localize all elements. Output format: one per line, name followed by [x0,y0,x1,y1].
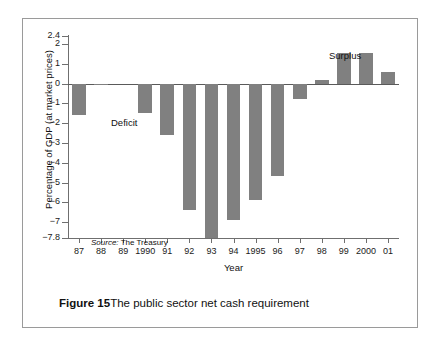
surplus-annotation: Surplus [329,50,361,61]
source-note: Source: The Treasury [91,238,168,247]
y-axis-tick [62,36,68,37]
x-axis-tick-label: 01 [383,246,393,256]
figure-caption-label: Figure 15 [59,297,110,309]
x-axis-tick-label: 2000 [356,246,376,256]
x-axis-title: Year [68,262,399,273]
x-axis-tick [189,238,190,243]
x-axis-tick-label: 89 [118,246,128,256]
x-axis-tick [344,238,345,243]
y-axis-tick [62,103,68,104]
figure-caption: Figure 15The public sector net cash requ… [59,297,309,309]
y-axis-tick-label: −6 [50,197,60,206]
bar [293,84,307,100]
bar [381,72,395,84]
x-axis-tick [211,238,212,243]
deficit-annotation: Deficit [111,117,137,128]
y-axis-tick [62,123,68,124]
x-axis-tick [388,238,389,243]
y-axis-tick [62,44,68,45]
figure-caption-text: The public sector net cash requirement [110,297,309,309]
x-axis-tick [256,238,257,243]
x-axis-tick-label: 93 [206,246,216,256]
y-axis-tick-label: −5 [50,178,60,187]
x-axis-tick [366,238,367,243]
x-axis-tick [322,238,323,243]
x-axis-tick [300,238,301,243]
source-note-label: Source: [91,238,119,247]
y-axis-tick [62,202,68,203]
x-axis-tick-label: 92 [184,246,194,256]
y-axis-tick [62,84,68,85]
bar [94,84,108,86]
x-axis-tick-label: 1995 [246,246,266,256]
bar [227,84,241,221]
chart-plot-wrapper: Percentage of GDP (at market prices) 2.4… [23,19,419,287]
x-axis-tick [278,238,279,243]
x-axis-tick-label: 87 [74,246,84,256]
y-axis-tick-label: −2 [50,118,60,127]
y-axis-tick [62,183,68,184]
figure-frame: Percentage of GDP (at market prices) 2.4… [22,18,418,328]
bar [249,84,263,201]
x-axis-tick [234,238,235,243]
y-axis-tick-label: 2 [55,39,60,48]
bar [183,84,197,211]
bar [160,84,174,135]
y-axis-tick [62,143,68,144]
bar [315,80,329,84]
x-axis-tick-label: 88 [96,246,106,256]
y-axis-tick-label: −3 [50,138,60,147]
y-axis-line [68,35,69,239]
y-axis-tick-labels: 2.4210−1−2−3−4−5−6−7−7.8 [23,19,60,259]
y-axis-tick-label: −4 [50,158,60,167]
bar [205,84,219,238]
x-axis-tick-label: 99 [339,246,349,256]
y-axis-tick-label: −7.8 [42,233,60,242]
y-axis-tick-label: 1 [55,59,60,68]
x-axis-tick-label: 98 [317,246,327,256]
x-axis-tick-label: 1990 [135,246,155,256]
y-axis-tick [62,222,68,223]
bar [72,84,86,116]
x-axis-tick [79,238,80,243]
y-axis-tick [62,238,68,239]
y-axis-tick-label: −7 [50,217,60,226]
source-note-value: The Treasury [121,238,168,247]
bar [271,84,285,176]
y-axis-tick-label: 0 [55,79,60,88]
x-axis-tick-label: 91 [162,246,172,256]
y-axis-tick [62,163,68,164]
x-axis-tick-label: 97 [295,246,305,256]
y-axis-tick-label: −1 [50,98,60,107]
y-axis-tick [62,64,68,65]
x-axis-tick-label: 96 [273,246,283,256]
bar [138,84,152,114]
x-axis-tick-label: 94 [228,246,238,256]
